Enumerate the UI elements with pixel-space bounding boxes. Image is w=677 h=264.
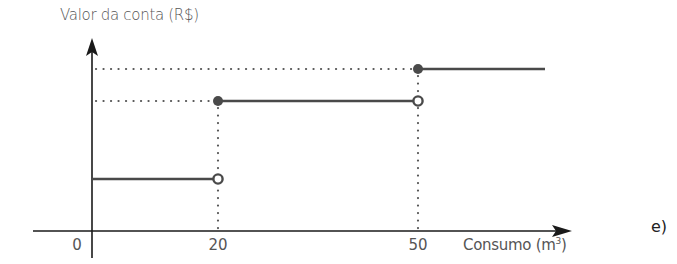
x-axis-label-close: ) [561, 236, 567, 254]
open-point-20 [213, 174, 222, 183]
x-tick-20: 20 [208, 236, 227, 254]
x-axis-label: Consumo (m3) [463, 236, 567, 254]
closed-point-50 [413, 64, 423, 74]
dotted-guides [96, 69, 418, 231]
y-axis-label: Valor da conta (R$) [60, 6, 199, 24]
x-tick-0: 0 [72, 236, 82, 254]
step-chart [0, 0, 677, 264]
open-point-50 [413, 96, 422, 105]
option-label: e) [651, 217, 667, 236]
step-segments [92, 69, 545, 179]
x-axis-label-base: Consumo (m [463, 236, 556, 254]
closed-point-20 [213, 96, 223, 106]
axes [33, 50, 560, 258]
x-tick-50: 50 [408, 236, 427, 254]
